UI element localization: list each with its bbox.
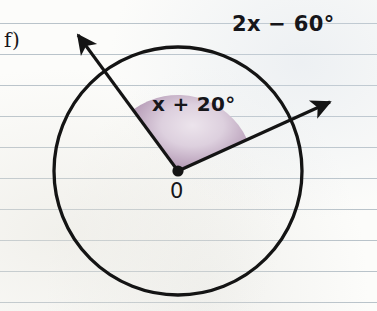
center-point-label: 0 xyxy=(170,181,184,202)
outer-angle-label: 2x − 60° xyxy=(232,14,335,35)
circle-angle-diagram xyxy=(0,0,377,311)
inner-angle-label: x + 20° xyxy=(152,94,236,114)
part-label: f) xyxy=(4,30,20,50)
worksheet-page: f) 2x − 60° x + 20° 0 xyxy=(0,0,377,311)
center-point-dot xyxy=(172,165,183,176)
